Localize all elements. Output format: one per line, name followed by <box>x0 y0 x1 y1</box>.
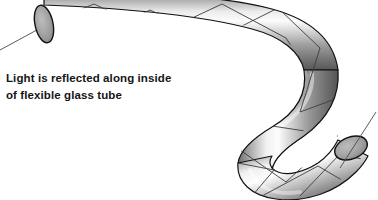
caption-line-1: Light is reflected along inside <box>6 72 171 84</box>
caption-line-2: of flexible glass tube <box>6 89 122 101</box>
fiber-optic-tube-diagram: Light is reflected along inside of flexi… <box>0 0 378 200</box>
